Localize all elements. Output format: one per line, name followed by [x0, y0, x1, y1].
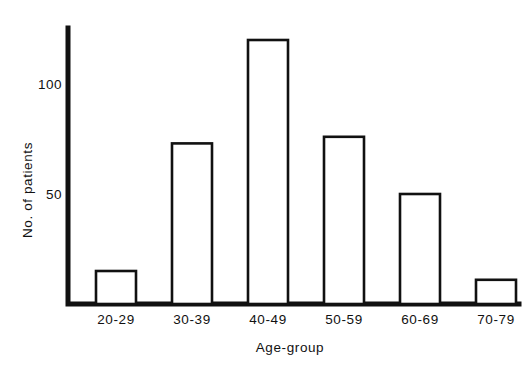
bar-chart: 100 50 No. of patients 20-29 30-39 40-49… [0, 0, 529, 375]
bar-40-49 [248, 40, 288, 304]
bar-50-59 [324, 137, 364, 304]
y-tick-label-100: 100 [38, 77, 62, 92]
x-tick-label-60-69: 60-69 [401, 312, 439, 327]
bar-70-79 [476, 280, 516, 304]
x-tick-label-70-79: 70-79 [477, 312, 515, 327]
x-tick-label-50-59: 50-59 [325, 312, 363, 327]
bar-60-69 [400, 194, 440, 304]
x-axis-title: Age-group [256, 340, 324, 355]
bar-20-29 [96, 271, 136, 304]
x-tick-label-20-29: 20-29 [97, 312, 135, 327]
y-tick-label-50: 50 [46, 187, 62, 202]
bar-30-39 [172, 143, 212, 304]
chart-page: 100 50 No. of patients 20-29 30-39 40-49… [0, 0, 529, 375]
bars-group [96, 40, 516, 304]
x-tick-label-40-49: 40-49 [249, 312, 287, 327]
chart-axes [68, 28, 519, 304]
y-axis-title: No. of patients [20, 142, 35, 238]
x-tick-label-30-39: 30-39 [173, 312, 211, 327]
